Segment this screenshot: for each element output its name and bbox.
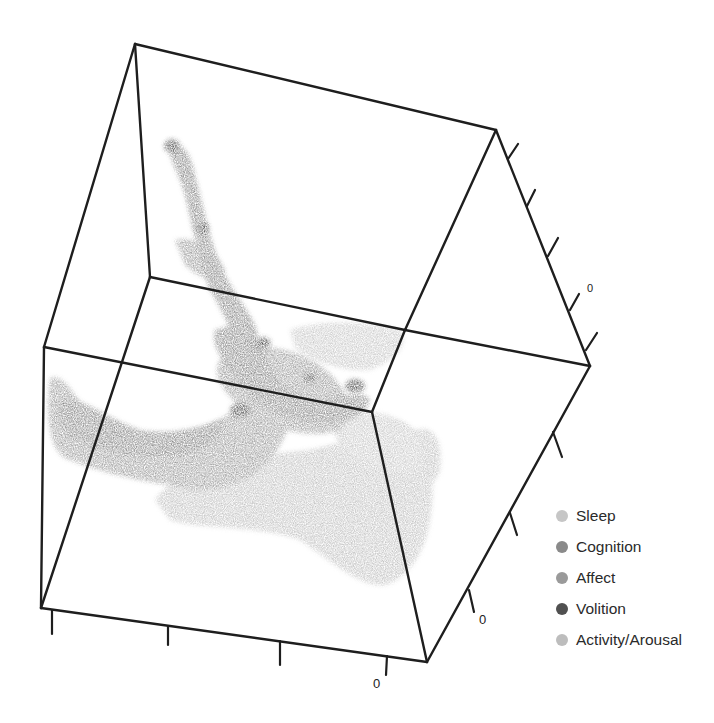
legend-item-activity-arousal: Activity/Arousal xyxy=(556,624,682,655)
tick-label-right-lower-zero: 0 xyxy=(479,612,486,627)
point-clouds xyxy=(48,139,440,585)
series-cognition xyxy=(58,145,370,456)
tick-label-right-upper-zero: 0 xyxy=(587,282,593,294)
legend-item-affect: Affect xyxy=(556,562,682,593)
legend-dot-icon xyxy=(556,541,568,553)
legend-label: Activity/Arousal xyxy=(576,631,682,649)
legend-item-volition: Volition xyxy=(556,593,682,624)
legend-dot-icon xyxy=(556,572,568,584)
axis-ticks-right-upper: 0 xyxy=(508,144,597,350)
tick-label-bottom-zero: 0 xyxy=(373,676,380,691)
legend-label: Affect xyxy=(576,569,615,587)
axis-ticks-right-lower: 0 xyxy=(469,432,562,627)
legend-label: Volition xyxy=(576,600,626,618)
legend-label: Cognition xyxy=(576,538,642,556)
legend-dot-icon xyxy=(556,510,568,522)
legend-dot-icon xyxy=(556,603,568,615)
legend: Sleep Cognition Affect Volition Activity… xyxy=(556,500,682,655)
legend-dot-icon xyxy=(556,634,568,646)
legend-label: Sleep xyxy=(576,507,616,525)
legend-item-sleep: Sleep xyxy=(556,500,682,531)
legend-item-cognition: Cognition xyxy=(556,531,682,562)
